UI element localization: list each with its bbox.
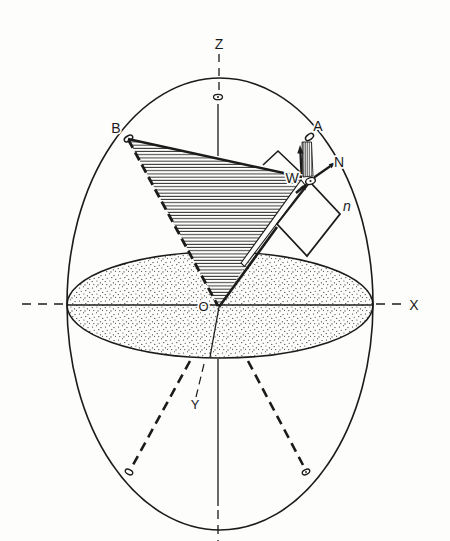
arrow-w-n: [314, 162, 336, 178]
label-origin: O: [198, 299, 208, 314]
loop-marker-lower-left: [124, 468, 133, 476]
label-x-axis: X: [409, 297, 419, 313]
strip-w-to-a: [302, 142, 313, 177]
label-normal-n: N: [334, 154, 344, 170]
figure-page: Z X Y O A B N W n: [0, 0, 450, 541]
optic-axis-extension-left: [133, 361, 190, 465]
label-z-axis: Z: [215, 36, 224, 52]
loop-marker-lower-right: [301, 468, 310, 476]
label-point-w: W: [285, 170, 299, 186]
label-point-a: A: [313, 118, 323, 134]
marker-w-ring: [305, 176, 317, 185]
sphere-axes-diagram: Z X Y O A B N W n: [0, 0, 450, 541]
optic-axis-extension-right: [248, 361, 303, 465]
z-axis-ring-marker: [214, 94, 223, 99]
label-y-axis: Y: [191, 397, 200, 412]
label-point-b: B: [111, 120, 120, 136]
y-axis-dashed: [196, 364, 204, 397]
label-plane-n: n: [343, 198, 351, 214]
